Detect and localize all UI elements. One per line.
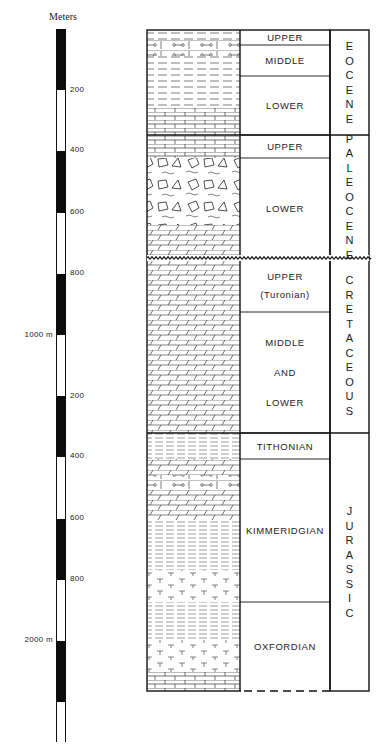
svg-text:C: C — [346, 205, 354, 217]
lithology-band — [147, 602, 240, 640]
svg-text:C: C — [346, 607, 354, 619]
stage-label: OXFORDIAN — [254, 641, 316, 652]
svg-text:I: I — [348, 592, 351, 604]
svg-text:N: N — [346, 234, 354, 246]
svg-text:A: A — [346, 549, 354, 561]
stage-label: (Turonian) — [260, 289, 309, 300]
system-label: JURASSIC — [346, 505, 354, 619]
svg-text:T: T — [346, 318, 353, 330]
lithology-band — [147, 30, 240, 40]
svg-text:E: E — [346, 113, 353, 125]
lithology-band — [147, 433, 240, 459]
svg-text:L: L — [346, 162, 352, 174]
lithology-band — [147, 520, 240, 570]
stage-label: MIDDLE — [265, 337, 305, 348]
svg-text:R: R — [346, 534, 354, 546]
lithology-band — [147, 158, 240, 225]
lithology-band — [147, 76, 240, 108]
svg-text:S: S — [346, 405, 353, 417]
svg-text:C: C — [346, 69, 354, 81]
stage-label: TITHONIAN — [257, 441, 314, 452]
svg-text:O: O — [345, 376, 354, 388]
svg-text:R: R — [346, 289, 354, 301]
svg-text:C: C — [346, 347, 354, 359]
stratigraphic-column: UPPERMIDDLELOWERUPPERLOWERUPPER(Turonian… — [0, 0, 382, 755]
lithology-band — [147, 490, 240, 520]
stage-label: LOWER — [266, 397, 304, 408]
svg-text:S: S — [346, 578, 353, 590]
svg-text:E: E — [346, 220, 353, 232]
svg-text:J: J — [347, 505, 353, 517]
lithology-band — [147, 225, 240, 258]
svg-text:A: A — [346, 332, 354, 344]
stage-label: UPPER — [267, 141, 303, 152]
system-label: CRETACEOUS — [345, 274, 354, 417]
lithology-band — [147, 56, 240, 76]
stage-label: UPPER — [267, 32, 303, 43]
stage-label: LOWER — [266, 203, 304, 214]
svg-text:A: A — [346, 147, 354, 159]
stage-label: MIDDLE — [265, 55, 305, 66]
lithology-band — [147, 40, 240, 56]
lithology-band — [147, 258, 240, 433]
lithology-band — [147, 459, 240, 475]
lithology-band — [147, 640, 240, 672]
column-labels: UPPERMIDDLELOWERUPPERLOWERUPPER(Turonian… — [246, 32, 354, 652]
lithology-band — [147, 135, 240, 158]
svg-text:O: O — [345, 191, 354, 203]
lithology-band — [147, 475, 240, 490]
svg-text:O: O — [345, 55, 354, 67]
svg-text:U: U — [346, 390, 354, 402]
lithology-band — [147, 108, 240, 135]
stage-label: UPPER — [267, 271, 303, 282]
system-label: PALEOCENE — [345, 133, 354, 261]
svg-text:P: P — [346, 133, 353, 145]
lithology-band — [147, 672, 240, 691]
lithology-column — [147, 30, 240, 691]
svg-text:E: E — [346, 361, 353, 373]
svg-text:E: E — [346, 249, 353, 261]
svg-text:U: U — [346, 520, 354, 532]
svg-text:E: E — [346, 40, 353, 52]
lithology-band — [147, 570, 240, 602]
system-label: EOCENE — [345, 40, 354, 125]
svg-text:E: E — [346, 303, 353, 315]
stage-label: AND — [274, 367, 296, 378]
svg-text:S: S — [346, 563, 353, 575]
stage-label: KIMMERIDGIAN — [246, 525, 324, 536]
svg-text:C: C — [346, 274, 354, 286]
stage-label: LOWER — [266, 100, 304, 111]
svg-text:N: N — [346, 98, 354, 110]
svg-text:E: E — [346, 176, 353, 188]
svg-text:E: E — [346, 84, 353, 96]
